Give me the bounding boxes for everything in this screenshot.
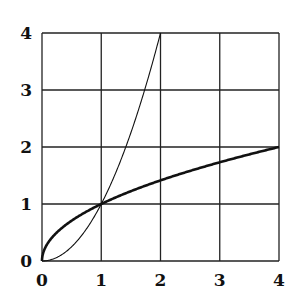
- x-tick-label: 3: [214, 270, 226, 290]
- y-tick-label: 0: [20, 251, 32, 271]
- plot-area: 01234 01234: [0, 0, 299, 302]
- x-axis-ticks: 01234: [36, 270, 285, 290]
- y-tick-label: 3: [20, 80, 32, 100]
- y-tick-label: 1: [20, 194, 32, 214]
- y-tick-label: 4: [20, 23, 32, 43]
- y-axis-ticks: 01234: [20, 23, 32, 271]
- y-tick-label: 2: [20, 137, 32, 157]
- x-tick-label: 0: [36, 270, 48, 290]
- x-tick-label: 2: [155, 270, 167, 290]
- x-tick-label: 1: [95, 270, 107, 290]
- x-tick-label: 4: [273, 270, 285, 290]
- grid: [42, 33, 279, 261]
